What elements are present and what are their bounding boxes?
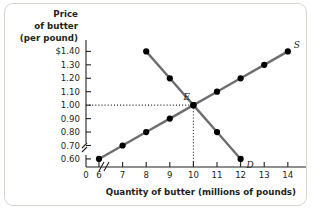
data-point-S	[261, 62, 267, 68]
curve-label-D: D	[246, 160, 254, 170]
x-tick-label: 6	[96, 170, 101, 180]
curve-label-S: S	[294, 40, 300, 50]
data-point-S	[238, 75, 244, 81]
x-axis-title-text: Quantity of butter (millions of pounds)	[106, 187, 296, 197]
y-axis-title-line: Price	[53, 9, 78, 19]
data-point-D	[214, 129, 220, 135]
x-origin-label: 0	[83, 170, 88, 180]
y-tick-label: 0.60	[61, 154, 80, 164]
y-axis-title: Priceof butter(per pound)	[20, 9, 79, 43]
data-point-D	[167, 75, 173, 81]
y-tick-label: 0.80	[61, 127, 80, 137]
x-tick-label: 12	[235, 170, 246, 180]
annotation-labels: E	[182, 92, 190, 102]
y-tick-label: 1.00	[61, 100, 80, 110]
x-tick-label: 8	[143, 170, 148, 180]
data-point-S	[285, 48, 291, 54]
x-tick-label: 11	[212, 170, 223, 180]
data-point-S	[214, 89, 220, 95]
x-tick-label: 7	[120, 170, 125, 180]
y-tick-label: $1.40	[55, 46, 80, 56]
x-axis-title: Quantity of butter (millions of pounds)	[106, 187, 296, 197]
y-tick-label: 0.90	[61, 114, 80, 124]
data-point-D	[190, 102, 196, 108]
y-tick-label: 1.20	[61, 73, 80, 83]
equilibrium-label: E	[182, 92, 190, 102]
y-axis-break-icon	[82, 143, 87, 152]
data-point-D	[238, 156, 244, 162]
figure-container: Priceof butter(per pound) 0.600.700.800.…	[0, 0, 312, 211]
x-tick-label: 14	[282, 170, 293, 180]
data-point-S	[96, 156, 102, 162]
y-tick-label: 0.70	[61, 141, 80, 151]
x-tick-label: 9	[167, 170, 172, 180]
data-point-S	[167, 116, 173, 122]
data-point-D	[143, 48, 149, 54]
y-axis-title-line: of butter	[34, 21, 78, 31]
x-tick-label: 10	[188, 170, 199, 180]
data-point-S	[143, 129, 149, 135]
y-axis-title-line: (per pound)	[20, 33, 78, 43]
data-points	[96, 48, 291, 162]
supply-demand-chart: Priceof butter(per pound) 0.600.700.800.…	[0, 0, 312, 211]
x-tick-label: 13	[259, 170, 270, 180]
x-axis-ticks: 678910111213140	[83, 162, 293, 180]
y-tick-label: 1.30	[61, 60, 80, 70]
data-point-S	[119, 142, 125, 148]
y-tick-label: 1.10	[61, 87, 80, 97]
